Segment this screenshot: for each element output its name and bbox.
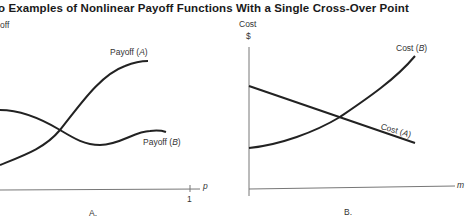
panel-a-x-axis [0, 189, 200, 190]
cost-a-line [249, 86, 415, 143]
panel-b-y-label: Cost [239, 19, 256, 29]
payoff-b-curve [0, 110, 166, 145]
panel-a-caption: A. [89, 208, 97, 218]
cost-b-close: ) [424, 43, 427, 53]
payoff-b-label-text: Payoff ( [143, 137, 172, 147]
panel-a-tick-label-1: 1 [187, 194, 192, 204]
payoff-a-label: Payoff (A) [110, 47, 148, 57]
panel-b-caption: B. [344, 207, 352, 217]
panel-a-chart [0, 61, 200, 192]
cost-b-label-text: Cost ( [396, 43, 419, 53]
cost-b-label: Cost (B) [396, 43, 427, 53]
figure-plots [0, 0, 466, 223]
panel-b-y-unit: $ [246, 31, 251, 41]
panel-a-y-label: off [0, 20, 9, 30]
panel-a-x-label: p [203, 181, 208, 191]
payoff-b-label: Payoff (B) [143, 137, 181, 147]
payoff-b-close: ) [178, 137, 181, 147]
panel-b-x-label: m [457, 180, 464, 190]
panel-b-chart [249, 47, 455, 196]
payoff-a-label-text: Payoff ( [110, 47, 139, 57]
panel-b-x-axis [249, 186, 455, 189]
payoff-a-close: ) [145, 47, 148, 57]
